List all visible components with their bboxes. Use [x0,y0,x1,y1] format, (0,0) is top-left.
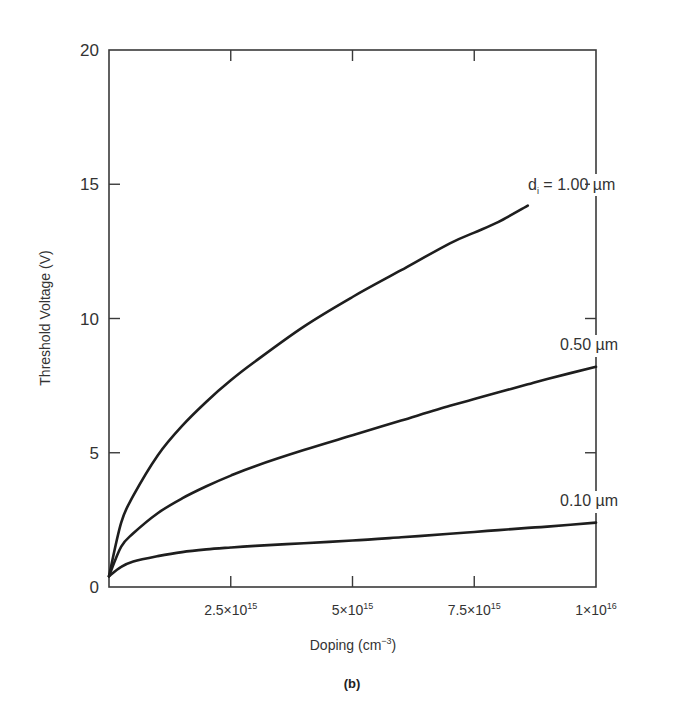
y-axis-title: Threshold Voltage (V) [37,250,53,385]
series-labels: di = 1.00 µm0.50 µm0.10 µm [528,174,618,513]
y-tick-label: 10 [80,310,99,329]
series-label-0-10um: 0.10 µm [560,492,618,509]
curve-0-50um [109,367,596,577]
y-tick-label: 15 [80,175,99,194]
x-axis-ticks: 2.5×10155×10157.5×10151×1016 [204,50,617,618]
data-curves [109,206,596,577]
y-tick-label: 5 [90,444,99,463]
x-tick-label: 5×1015 [332,601,374,618]
x-tick-label: 2.5×1015 [204,601,257,618]
series-label-0-50um: 0.50 µm [560,336,618,353]
plot-border [109,50,596,587]
x-axis-title: Doping (cm−3) [310,636,397,653]
x-tick-label: 1×1016 [575,601,617,618]
y-tick-label: 0 [90,578,99,597]
curve-1-00um [109,206,528,577]
curve-0-10um [109,523,596,577]
x-tick-label: 7.5×1015 [448,601,501,618]
series-label-1-00um: di = 1.00 µm [528,176,615,196]
plot-frame [109,50,596,587]
threshold-voltage-chart: 05101520 2.5×10155×10157.5×10151×1016 di… [0,0,675,728]
y-tick-label: 20 [80,41,99,60]
figure-caption: (b) [344,676,361,691]
